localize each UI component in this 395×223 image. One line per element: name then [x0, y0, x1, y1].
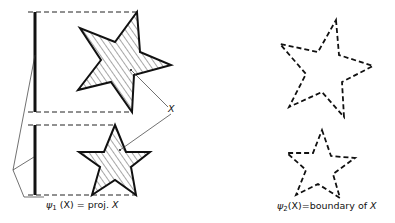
psi-subscript: 1: [52, 204, 56, 212]
boundary-var: X: [370, 200, 377, 211]
boundary-star-bottom: [287, 130, 355, 198]
projection-var: X: [112, 199, 119, 210]
point-marker-label: X: [168, 103, 175, 114]
boundary-label: ψ2(X)=boundary of X: [277, 200, 377, 213]
projection-bottom-group: [28, 125, 150, 195]
diagram-canvas: [0, 0, 395, 223]
projection-top-group: [28, 12, 171, 112]
projection-label: ψ1 (X) = proj. X: [46, 199, 118, 212]
boundary-star-top: [280, 20, 373, 117]
hatched-star-bottom: [79, 125, 150, 195]
projection-arg: (X): [60, 199, 74, 210]
hatched-star-top: [78, 12, 171, 112]
boundary-arg: (X): [288, 200, 302, 211]
projection-text: = proj.: [74, 199, 112, 210]
boundary-text: =boundary of: [302, 200, 370, 211]
